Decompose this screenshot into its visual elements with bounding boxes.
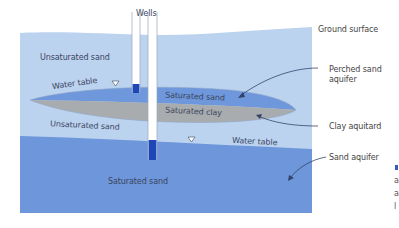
edge-fragment-marker [395, 165, 398, 170]
edge-fragment-2: a [394, 189, 399, 198]
perched-aquifer-label-line2: aquifer [329, 74, 357, 85]
well-shallow-casing [132, 12, 140, 93]
well-shallow-water [133, 84, 140, 93]
lower-saturated-sand-label: Saturated sand [108, 177, 168, 186]
edge-fragment-1: a [394, 176, 399, 185]
sand-aquifer-layer [20, 136, 312, 213]
ground-surface-label: Ground surface [318, 24, 378, 35]
well-deep-water [149, 140, 157, 160]
well-deep-casing [148, 12, 157, 160]
sand-aquifer-label: Sand aquifer [329, 152, 379, 163]
clay-aquitard-label: Clay aquitard [329, 121, 381, 132]
wells-label: Wells [136, 9, 156, 18]
upper-unsaturated-sand-label: Unsaturated sand [40, 53, 110, 62]
edge-fragment-3: l [394, 202, 396, 211]
